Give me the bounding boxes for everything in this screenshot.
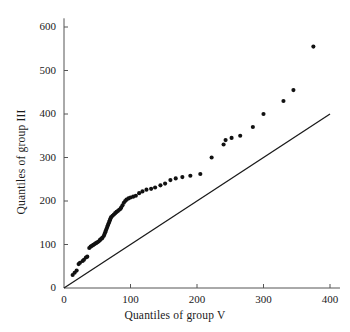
data-point bbox=[85, 255, 89, 259]
data-point bbox=[281, 99, 285, 103]
data-point bbox=[291, 88, 295, 92]
x-axis-tick-label: 300 bbox=[244, 293, 284, 305]
x-axis-tick-label: 100 bbox=[111, 293, 151, 305]
x-axis-tick-label: 0 bbox=[44, 293, 84, 305]
data-point bbox=[158, 183, 162, 187]
y-axis-tick-label: 300 bbox=[16, 151, 56, 163]
data-point bbox=[168, 178, 172, 182]
y-axis-tick-label: 100 bbox=[16, 238, 56, 250]
data-point bbox=[222, 142, 226, 146]
data-point bbox=[144, 188, 148, 192]
data-point bbox=[149, 187, 153, 191]
data-point bbox=[311, 45, 315, 49]
data-point bbox=[261, 112, 265, 116]
data-point bbox=[75, 269, 79, 273]
y-axis-tick-label: 200 bbox=[16, 194, 56, 206]
x-axis-tick-label: 400 bbox=[310, 293, 350, 305]
y-axis-tick-label: 600 bbox=[16, 20, 56, 32]
qq-plot-figure: Quantiles of group V Quantiles of group … bbox=[0, 0, 350, 332]
data-point bbox=[140, 189, 144, 193]
reference-line bbox=[64, 114, 330, 288]
data-point bbox=[251, 125, 255, 129]
data-point bbox=[188, 174, 192, 178]
y-axis-tick-label: 0 bbox=[16, 281, 56, 293]
data-point bbox=[180, 175, 184, 179]
data-point bbox=[210, 155, 214, 159]
data-point bbox=[174, 176, 178, 180]
data-point bbox=[153, 185, 157, 189]
y-axis-tick-label: 400 bbox=[16, 107, 56, 119]
x-axis-title: Quantiles of group V bbox=[0, 309, 350, 321]
y-axis-tick-label: 500 bbox=[16, 64, 56, 76]
data-point bbox=[163, 182, 167, 186]
data-point bbox=[224, 138, 228, 142]
data-point bbox=[238, 134, 242, 138]
data-point bbox=[134, 194, 138, 198]
data-point-group bbox=[71, 45, 316, 278]
data-point bbox=[230, 136, 234, 140]
data-point bbox=[198, 172, 202, 176]
x-axis-tick-label: 200 bbox=[177, 293, 217, 305]
